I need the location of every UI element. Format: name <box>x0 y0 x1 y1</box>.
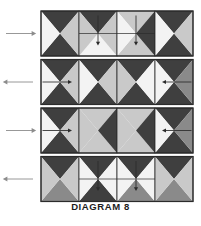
row-4-margin-arrow-left-head <box>3 176 8 181</box>
row-1-margin-arrow-right-head <box>32 31 37 36</box>
row-1-margin-arrow-right <box>6 31 36 36</box>
r2c3-tile <box>117 60 155 105</box>
row-3 <box>41 108 193 153</box>
r2c2-tile <box>79 60 117 105</box>
row-4-margin-arrow-left <box>3 176 33 181</box>
row-2-margin-arrow-left-head <box>3 79 8 84</box>
row-1 <box>41 11 193 56</box>
r1c1-tile <box>41 11 79 56</box>
row-3-margin-arrow-right-head <box>32 128 37 133</box>
r1c4-tile <box>155 11 193 56</box>
r3c2-tile <box>79 108 117 153</box>
row-4 <box>41 157 193 202</box>
row-2-margin-arrow-left <box>3 79 33 84</box>
r3c3-tile <box>117 108 155 153</box>
r4c1-tile <box>41 157 79 202</box>
row-3-margin-arrow-right <box>6 128 36 133</box>
diagram-figure <box>0 0 201 226</box>
diagram-caption: DIAGRAM 8 <box>0 201 201 213</box>
row-2 <box>41 60 193 105</box>
r4c4-tile <box>155 157 193 202</box>
